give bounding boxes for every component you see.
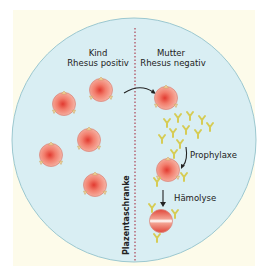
body-circle — [12, 18, 256, 262]
left-title-line1: Kind — [89, 48, 108, 58]
left-title-line2: Rhesus positiv — [67, 58, 129, 68]
rhesus-diagram: Kind Rhesus positiv Mutter Rhesus negati… — [0, 0, 268, 277]
prophylaxis-label: Prophylaxe — [190, 150, 237, 160]
hemolysis-label: Hämolyse — [174, 193, 216, 203]
right-title-line2: Rhesus negativ — [140, 58, 205, 68]
right-title-line1: Mutter — [157, 48, 186, 58]
placental-barrier-label: Plazentaschranke — [122, 175, 131, 255]
